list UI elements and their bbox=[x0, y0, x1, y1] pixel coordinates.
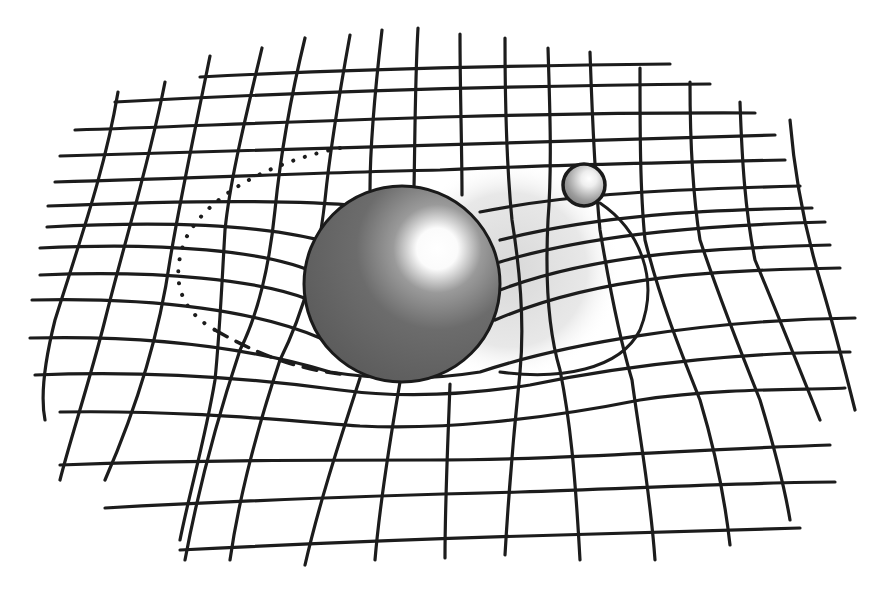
grid-horizontal-line-4 bbox=[55, 160, 785, 182]
spacetime-illustration bbox=[0, 0, 887, 591]
grid-vertical-line-0 bbox=[43, 92, 118, 420]
grid-vertical-line-13 bbox=[690, 82, 790, 520]
grid-horizontal-line-3 bbox=[60, 135, 775, 156]
figure-canvas bbox=[0, 0, 887, 591]
grid-vertical-line-1 bbox=[60, 82, 165, 480]
grid-horizontal-line-15 bbox=[180, 528, 800, 550]
grid-vertical-line-14 bbox=[740, 102, 820, 420]
large-mass-sphere bbox=[304, 186, 500, 382]
small-orbiting-sphere bbox=[563, 164, 605, 206]
grid-horizontal-line-0 bbox=[200, 64, 670, 77]
